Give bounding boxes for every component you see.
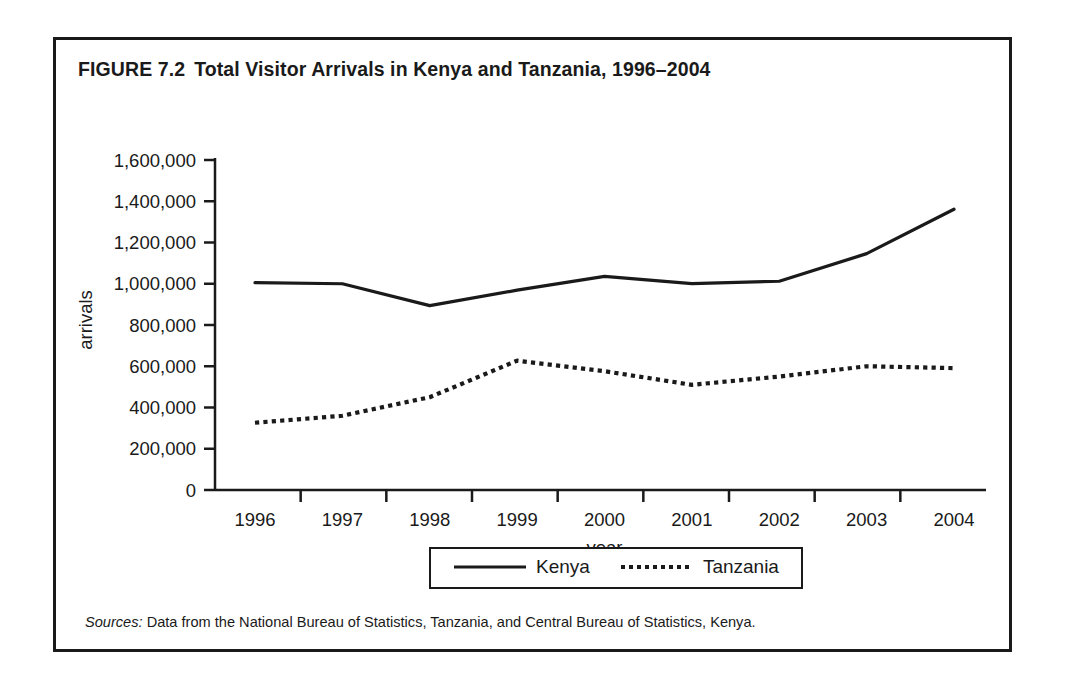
x-axis-tick-label: 2001 xyxy=(671,509,712,530)
y-axis-tick-label: 1,400,000 xyxy=(114,191,196,212)
chart-plot-area: 0200,000400,000600,000800,0001,000,0001,… xyxy=(56,88,1009,588)
y-axis-tick-label: 800,000 xyxy=(129,315,196,336)
y-axis-tick-label: 1,200,000 xyxy=(114,232,196,253)
figure-title-text: Total Visitor Arrivals in Kenya and Tanz… xyxy=(194,58,710,80)
series-line-kenya xyxy=(255,209,954,305)
x-axis-tick-label: 2002 xyxy=(759,509,800,530)
y-axis-tick-label: 1,600,000 xyxy=(114,150,196,171)
x-axis-tick-label: 2004 xyxy=(933,509,974,530)
y-axis-tick-label: 0 xyxy=(186,480,196,501)
line-chart: 0200,000400,000600,000800,0001,000,0001,… xyxy=(56,88,1009,588)
figure-container: FIGURE 7.2Total Visitor Arrivals in Keny… xyxy=(53,37,1012,652)
y-axis-tick-label: 600,000 xyxy=(129,356,196,377)
x-axis-tick-label: 2000 xyxy=(584,509,625,530)
source-text: Data from the National Bureau of Statist… xyxy=(143,614,756,630)
figure-number: FIGURE 7.2 xyxy=(78,58,185,80)
legend-item-tanzania: Tanzania xyxy=(620,556,779,578)
source-label: Sources: xyxy=(85,614,143,630)
y-axis-tick-label: 200,000 xyxy=(129,438,196,459)
legend-label: Tanzania xyxy=(703,556,779,578)
x-axis-tick-label: 1999 xyxy=(497,509,538,530)
legend-item-kenya: Kenya xyxy=(453,556,590,578)
legend-swatch-solid xyxy=(453,560,527,574)
y-axis-tick-label: 400,000 xyxy=(129,397,196,418)
legend-label: Kenya xyxy=(536,556,590,578)
series-line-tanzania xyxy=(255,361,954,423)
y-axis-title: arrivals xyxy=(75,290,96,350)
x-axis-tick-label: 1996 xyxy=(234,509,275,530)
source-note: Sources: Data from the National Bureau o… xyxy=(85,614,756,630)
figure-title: FIGURE 7.2Total Visitor Arrivals in Keny… xyxy=(78,58,711,81)
x-axis-tick-label: 1997 xyxy=(322,509,363,530)
x-axis-tick-label: 2003 xyxy=(846,509,887,530)
legend-swatch-dotted xyxy=(620,560,694,574)
y-axis-tick-label: 1,000,000 xyxy=(114,273,196,294)
x-axis-tick-label: 1998 xyxy=(409,509,450,530)
chart-legend: KenyaTanzania xyxy=(429,547,803,589)
